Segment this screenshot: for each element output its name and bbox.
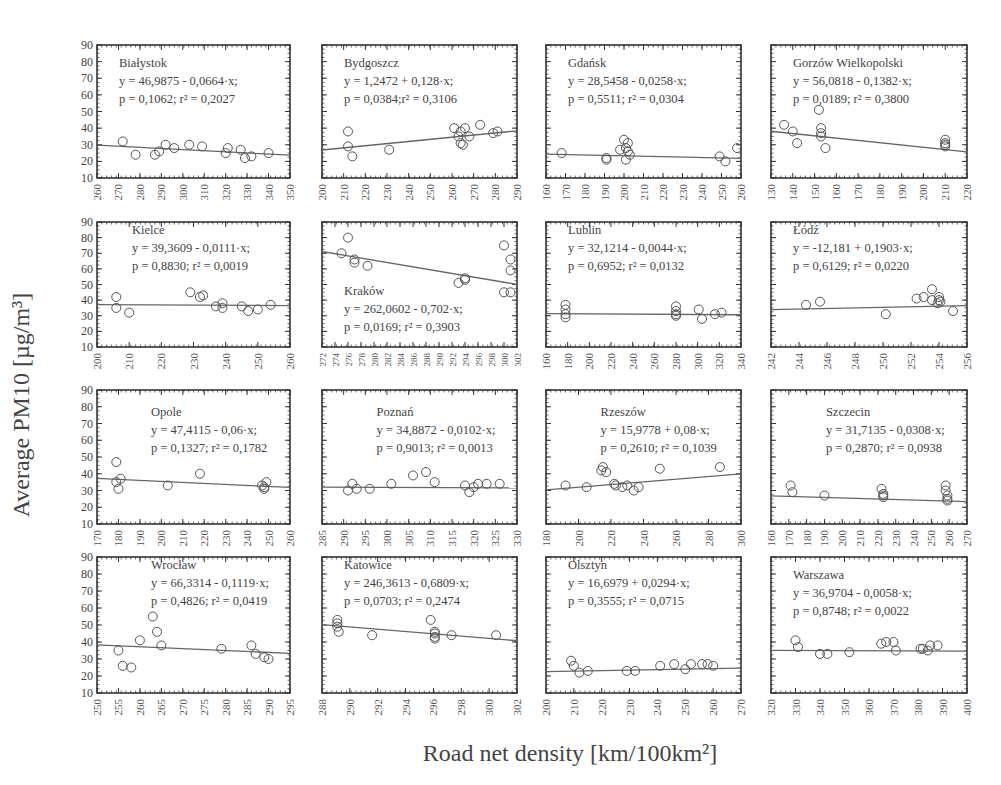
x-tick-label: 130 [765, 184, 777, 201]
data-point [199, 291, 208, 300]
x-tick-label: 220 [359, 184, 371, 201]
x-tick-label: 288 [316, 699, 328, 716]
regression-equation: y = 16,6979 + 0,0294·x; [568, 576, 690, 590]
x-tick-label: 320 [765, 699, 777, 716]
x-tick-label: 255 [112, 699, 124, 716]
regression-equation: y = 66,3314 - 0,1119·x; [151, 576, 269, 590]
data-point [153, 627, 162, 636]
x-tick-label: 260 [648, 353, 660, 370]
y-tick-label: 40 [81, 467, 93, 481]
y-tick-label: 90 [81, 383, 93, 397]
data-point [698, 314, 707, 323]
data-point [793, 139, 802, 148]
x-tick-label: 220 [872, 530, 884, 547]
x-tick-label: 200 [155, 530, 167, 547]
regression-stats: p = 0,2870; r² = 0,0938 [826, 441, 942, 455]
data-point [492, 631, 501, 640]
data-point [602, 468, 611, 477]
data-point [237, 302, 246, 311]
regression-stats: p = 0,8748; r² = 0,0022 [793, 604, 909, 618]
panel-olsztyn: 200210220230240250260270Olsztyny = 16,69… [540, 557, 747, 716]
panel-title: Bydgoszcz [344, 56, 399, 70]
data-point [698, 660, 707, 669]
y-tick-label: 50 [81, 450, 93, 464]
data-point [686, 660, 695, 669]
panel-wrocław: 1020304050607080902502552602652702752802… [81, 550, 296, 716]
data-point [348, 152, 357, 161]
x-tick-label: 200 [618, 184, 630, 201]
y-tick-label: 50 [81, 278, 93, 292]
x-tick-label: 300 [692, 353, 704, 370]
x-tick-label: 282 [383, 353, 393, 367]
x-tick-label: 260 [284, 353, 296, 370]
y-tick-label: 30 [81, 138, 93, 152]
regression-equation: y = 31,7135 - 0,0308·x; [826, 423, 945, 437]
regression-stats: p = 0,1062; r² = 0,2027 [119, 92, 235, 106]
x-tick-label: 240 [403, 184, 415, 201]
panel-poznań: 285290295300305310315320325330Poznańy = … [316, 390, 523, 547]
x-tick-label: 230 [890, 530, 902, 547]
y-tick-label: 30 [81, 309, 93, 323]
x-tick-label: 320 [220, 184, 232, 201]
data-point [814, 105, 823, 114]
y-tick-label: 20 [81, 154, 93, 168]
data-point [780, 120, 789, 129]
x-tick-label: 170 [560, 184, 572, 201]
panel-title: Kielce [132, 223, 165, 237]
x-tick-label: 170 [852, 184, 864, 201]
regression-stats: p = 0,0169; r² = 0,3903 [344, 320, 460, 334]
x-tick-label: 295 [359, 530, 371, 547]
data-point [240, 154, 249, 163]
x-tick-label: 350 [284, 184, 296, 201]
x-tick-label: 200 [316, 184, 328, 201]
data-point [195, 469, 204, 478]
regression-stats: p = 0,9013; r² = 0,0013 [377, 441, 493, 455]
x-tick-label: 150 [809, 184, 821, 201]
x-tick-label: 180 [112, 530, 124, 547]
x-tick-label: 294 [400, 699, 412, 716]
data-point [881, 310, 890, 319]
panel-gdańsk: 160170180190200210220230240250260Gdańsky… [540, 45, 747, 201]
data-point [217, 644, 226, 653]
panel-title: Kraków [344, 284, 384, 298]
x-tick-label: 310 [198, 184, 210, 201]
x-tick-label: 190 [134, 530, 146, 547]
data-point [253, 305, 262, 314]
x-tick-label: 190 [599, 184, 611, 201]
x-tick-label: 290 [338, 530, 350, 547]
x-tick-label: 280 [670, 353, 682, 370]
regression-equation: y = 39,3609 - 0,0111·x; [132, 241, 250, 255]
data-point [365, 484, 374, 493]
x-tick-label: 330 [511, 530, 523, 547]
x-tick-label: 200 [91, 353, 103, 370]
panel-title: Katowice [344, 558, 392, 572]
regression-line [322, 625, 517, 641]
data-point [941, 481, 950, 490]
panel-kielce: 102030405060708090200210220230240250260K… [81, 215, 296, 370]
plot-frame [97, 390, 290, 524]
regression-equation: y = 262,0602 - 0,702·x; [344, 302, 463, 316]
x-tick-label: 250 [252, 353, 264, 370]
data-point [575, 668, 584, 677]
y-tick-label: 20 [81, 324, 93, 338]
y-tick-label: 60 [81, 88, 93, 102]
x-tick-label: 340 [263, 184, 275, 201]
x-tick-label: 302 [511, 699, 523, 716]
x-tick-label: 220 [198, 530, 210, 547]
regression-stats: p = 0,6952; r² = 0,0132 [568, 259, 684, 273]
x-tick-label: 200 [836, 530, 848, 547]
x-tick-label: 180 [562, 353, 574, 370]
data-point [631, 666, 640, 675]
panel-title: Szczecin [826, 405, 871, 419]
data-point [368, 631, 377, 640]
x-tick-label: 286 [409, 353, 419, 367]
data-point [135, 636, 144, 645]
regression-line [322, 131, 517, 150]
x-tick-label: 170 [783, 530, 795, 547]
x-tick-label: 270 [961, 530, 973, 547]
x-tick-label: 370 [888, 699, 900, 716]
x-tick-label: 240 [651, 699, 663, 716]
x-tick-label: 230 [220, 530, 232, 547]
y-tick-label: 50 [81, 618, 93, 632]
x-tick-label: 300 [381, 530, 393, 547]
